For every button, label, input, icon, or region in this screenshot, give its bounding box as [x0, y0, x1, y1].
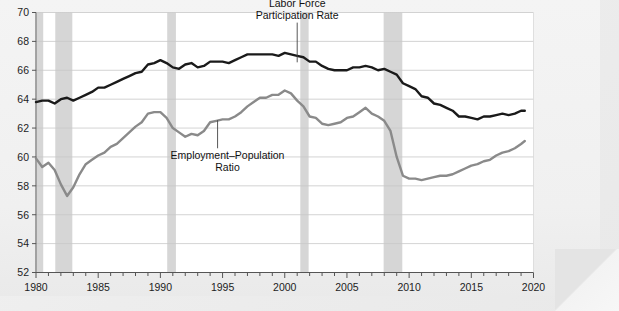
x-tick-label-2015: 2015: [460, 281, 484, 293]
y-tick-label-54: 54: [17, 237, 29, 249]
x-tick-label-1980: 1980: [24, 281, 48, 293]
chart-container: 52545658606264666870 1980198519901995200…: [0, 0, 619, 311]
y-tick-label-58: 58: [17, 180, 29, 192]
screenshot-page: 52545658606264666870 1980198519901995200…: [0, 0, 619, 311]
x-tick-label-1985: 1985: [87, 281, 111, 293]
labor-force-participation-rate-label-line-1: Labor Force: [269, 0, 326, 9]
recession-2001: [300, 13, 308, 273]
x-tick-label-1990: 1990: [149, 281, 173, 293]
recession-1981-1982: [55, 13, 72, 273]
x-tick-label-2000: 2000: [273, 281, 297, 293]
plot-background: [36, 13, 534, 273]
y-tick-label-60: 60: [17, 151, 29, 163]
employment-population-ratio-label-line-1: Employment–Population: [171, 149, 285, 161]
y-tick-label-66: 66: [17, 64, 29, 76]
x-tick-label-2010: 2010: [397, 281, 421, 293]
y-tick-label-64: 64: [17, 93, 29, 105]
x-tick-label-2005: 2005: [335, 281, 359, 293]
employment-population-ratio-label-line-2: Ratio: [215, 161, 240, 173]
y-tick-label-62: 62: [17, 122, 29, 134]
plot-area: [36, 13, 534, 273]
x-tick-label-1995: 1995: [211, 281, 235, 293]
y-tick-label-68: 68: [17, 35, 29, 47]
recession-1990-1991: [167, 13, 176, 273]
x-tick-label-2020: 2020: [522, 281, 546, 293]
y-tick-label-70: 70: [17, 6, 29, 18]
x-axis-labels-group: 198019851990199520002005201020152020: [24, 281, 545, 293]
y-tick-label-56: 56: [17, 209, 29, 221]
recession-1980: [37, 13, 44, 273]
labor-force-participation-chart: 52545658606264666870 1980198519901995200…: [0, 0, 619, 311]
labor-force-participation-rate-label-line-2: Participation Rate: [256, 9, 339, 21]
y-tick-label-52: 52: [17, 266, 29, 278]
y-axis-labels-group: 52545658606264666870: [17, 6, 29, 278]
